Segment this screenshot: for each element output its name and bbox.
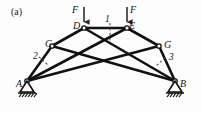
truss-members: [27, 28, 175, 81]
panel-label: (a): [11, 7, 22, 17]
node-label-C: C: [45, 39, 52, 49]
node-label-E: E: [129, 21, 135, 31]
section-label-2: 2: [33, 52, 38, 62]
member-D-B: [84, 28, 175, 81]
node-label-A: A: [16, 79, 22, 89]
joint-G: [157, 44, 161, 48]
load-label-right: F: [130, 5, 136, 15]
section-line-3: [156, 58, 165, 66]
support-A-hatching: [19, 93, 37, 97]
load-label-left: F: [72, 5, 78, 15]
section-label-1: 1: [105, 15, 110, 25]
member-A-E: [27, 28, 127, 81]
node-label-B: B: [180, 79, 186, 89]
node-label-G: G: [164, 40, 171, 50]
section-label-3: 3: [169, 53, 174, 63]
node-label-D: D: [73, 21, 80, 31]
truss-figure: (a) A B C D E G F F 1 2 3: [0, 0, 202, 113]
member-C-B: [52, 46, 175, 81]
joint-D: [82, 26, 86, 30]
